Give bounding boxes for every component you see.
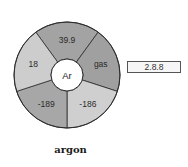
segment-label-atomic-number: 18: [29, 59, 39, 69]
electron-configuration-value: 2.8.8: [145, 62, 164, 72]
element-name: argon: [48, 144, 93, 155]
segment-label-atomic-mass: 39.9: [59, 35, 76, 45]
segment-label-boiling-point: -186: [79, 99, 96, 109]
element-wheel: Ar 39.9gas-186-18918: [0, 0, 188, 167]
element-symbol: Ar: [62, 70, 72, 81]
segment-label-state: gas: [94, 59, 108, 69]
segment-label-melting-point: -189: [38, 99, 55, 109]
electron-configuration-box: 2.8.8: [127, 61, 181, 73]
